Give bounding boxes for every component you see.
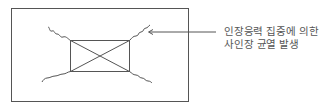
annotation-line-1: 인장응력 집중에 의한 [224, 25, 318, 38]
annotation-line-2: 사인장 균열 발생 [224, 38, 318, 51]
wall-frame [12, 9, 189, 102]
crack-diagram [0, 0, 325, 107]
crack-top-right [130, 25, 151, 41]
crack-bottom-right [130, 72, 153, 84]
crack-bottom-left [42, 72, 71, 83]
crack-annotation: 인장응력 집중에 의한 사인장 균열 발생 [224, 25, 318, 51]
crack-top-left [48, 27, 71, 41]
